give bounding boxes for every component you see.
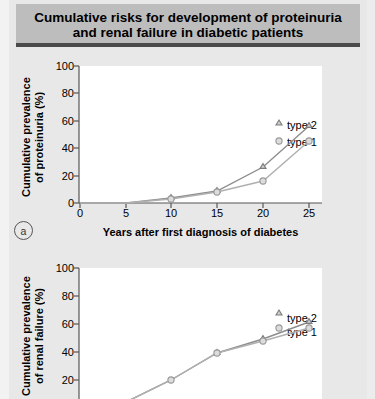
legend-marker-triangle bbox=[276, 120, 282, 125]
legend-marker-circle bbox=[276, 138, 282, 144]
data-point-marker-circle bbox=[260, 338, 266, 344]
data-point-marker-triangle bbox=[306, 319, 312, 324]
legend-marker-circle bbox=[276, 325, 282, 331]
data-point-marker-circle bbox=[168, 196, 174, 202]
figure-header-bar: Cumulative risks for development of prot… bbox=[16, 4, 360, 46]
chart-b-svg bbox=[0, 252, 375, 399]
axis-lines-a bbox=[74, 66, 322, 208]
chart-a-svg bbox=[0, 50, 375, 255]
series-type-1-b bbox=[126, 325, 312, 399]
data-point-marker-circle bbox=[260, 178, 266, 184]
data-point-marker-circle bbox=[306, 138, 312, 144]
figure-title: Cumulative risks for development of prot… bbox=[16, 4, 360, 46]
axis-lines-b bbox=[74, 268, 79, 399]
data-point-marker-circle bbox=[214, 350, 220, 356]
header-underline bbox=[16, 43, 360, 47]
data-point-marker-circle bbox=[306, 325, 312, 331]
series-type-2-a bbox=[80, 120, 312, 203]
chart-panel-a: Cumulative prevalence of proteinuria (%)… bbox=[0, 50, 375, 255]
chart-panel-b: Cumulative prevalence of renal failure (… bbox=[0, 252, 375, 399]
data-point-marker-circle bbox=[214, 189, 220, 195]
series-type-1-a bbox=[80, 138, 312, 203]
data-point-marker-circle bbox=[168, 377, 174, 383]
data-point-marker-triangle bbox=[306, 123, 312, 128]
legend-marker-triangle bbox=[276, 310, 282, 315]
